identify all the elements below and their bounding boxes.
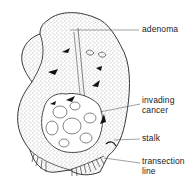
label-stalk: stalk xyxy=(142,134,160,144)
leader-transection-line xyxy=(104,158,140,163)
label-cancer: cancer xyxy=(142,106,168,116)
label-adenoma: adenoma xyxy=(142,25,178,35)
label-line: line xyxy=(142,167,156,177)
